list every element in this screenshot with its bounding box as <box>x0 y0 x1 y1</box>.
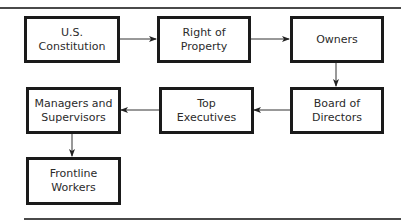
node-label: U.S. Constitution <box>31 26 113 54</box>
node-label: Right of Property <box>164 26 244 54</box>
node-managers-and-supervisors: Managers and Supervisors <box>26 87 121 134</box>
top-rule <box>0 7 401 9</box>
node-label: Frontline Workers <box>50 167 98 195</box>
node-us-constitution: U.S. Constitution <box>24 16 120 63</box>
node-label: Owners <box>316 33 358 47</box>
node-frontline-workers: Frontline Workers <box>26 157 121 205</box>
node-label: Top Executives <box>166 97 247 125</box>
bottom-rule <box>24 218 401 220</box>
node-board-of-directors: Board of Directors <box>290 87 384 134</box>
node-label: Managers and Supervisors <box>34 97 112 125</box>
node-right-of-property: Right of Property <box>157 16 251 63</box>
node-top-executives: Top Executives <box>159 87 254 134</box>
node-label: Board of Directors <box>312 97 362 125</box>
node-owners: Owners <box>290 16 384 63</box>
